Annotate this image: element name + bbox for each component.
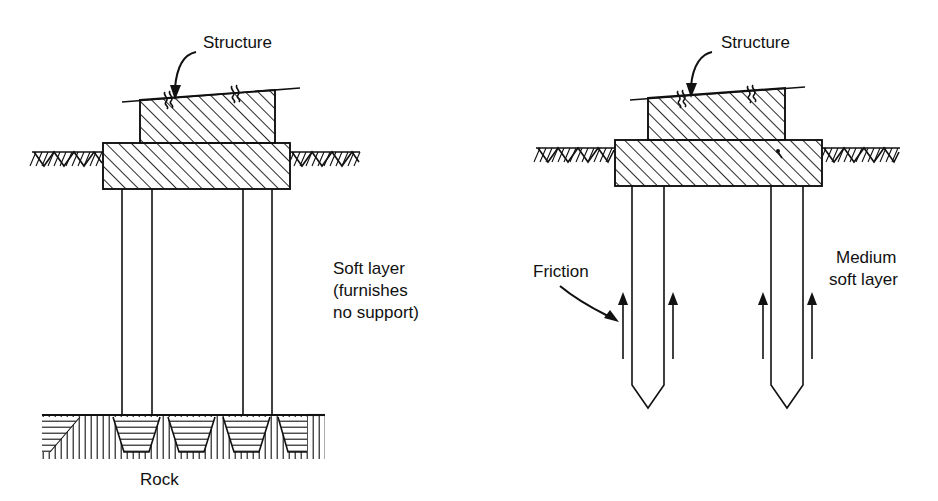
left-pile-cap-footing bbox=[103, 143, 290, 189]
right-pile-cap-footing bbox=[615, 140, 822, 186]
left-soft-layer-label-line1: Soft layer bbox=[333, 259, 405, 278]
rock-vertical-hatch-band-right bbox=[307, 415, 325, 459]
left-soft-layer-label-line2: (furnishes bbox=[333, 281, 408, 300]
left-soft-layer-label-line3: no support) bbox=[333, 303, 419, 322]
right-medium-soft-layer-line1: Medium bbox=[836, 248, 896, 267]
left-rock-label: Rock bbox=[140, 470, 179, 489]
right-footing-dot bbox=[776, 149, 780, 153]
diagram-canvas: Structure Soft layer (furnishes no suppo… bbox=[0, 0, 938, 501]
left-rock-stratum bbox=[42, 415, 325, 459]
right-structure-label: Structure bbox=[721, 33, 790, 52]
left-superstructure-block bbox=[140, 90, 275, 143]
figure-root: Structure Soft layer (furnishes no suppo… bbox=[0, 0, 938, 501]
right-superstructure-block bbox=[648, 88, 785, 140]
friction-label: Friction bbox=[533, 262, 589, 281]
right-medium-soft-layer-line2: soft layer bbox=[829, 270, 898, 289]
left-structure-label: Structure bbox=[203, 33, 272, 52]
